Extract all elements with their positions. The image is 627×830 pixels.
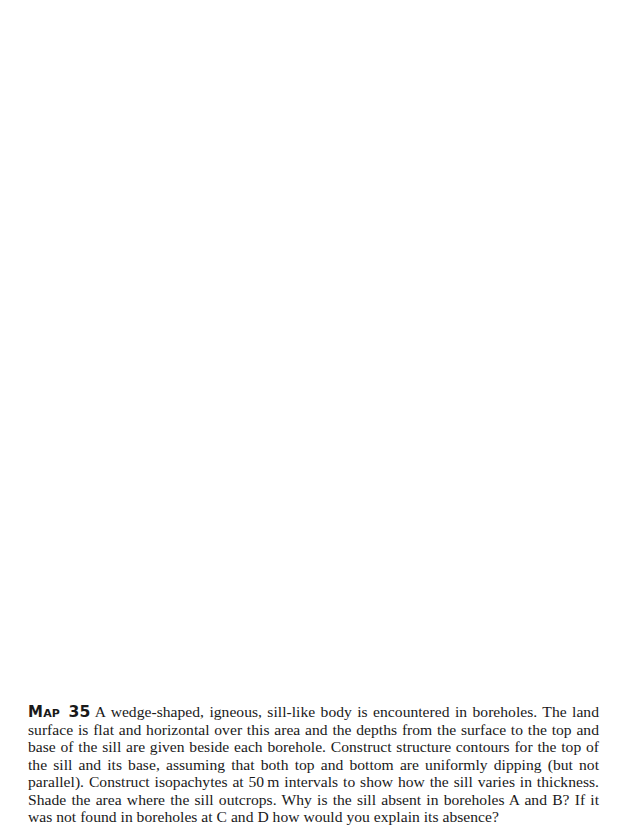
caption-label: Map	[28, 703, 60, 721]
caption-text: A wedge-shaped, igneous, sill-like body …	[28, 703, 599, 825]
document-page: Map 35 A wedge-shaped, igneous, sill-lik…	[0, 0, 627, 830]
map-placeholder-area	[0, 0, 627, 680]
map-caption: Map 35 A wedge-shaped, igneous, sill-lik…	[28, 703, 599, 826]
caption-number: 35	[69, 703, 91, 721]
